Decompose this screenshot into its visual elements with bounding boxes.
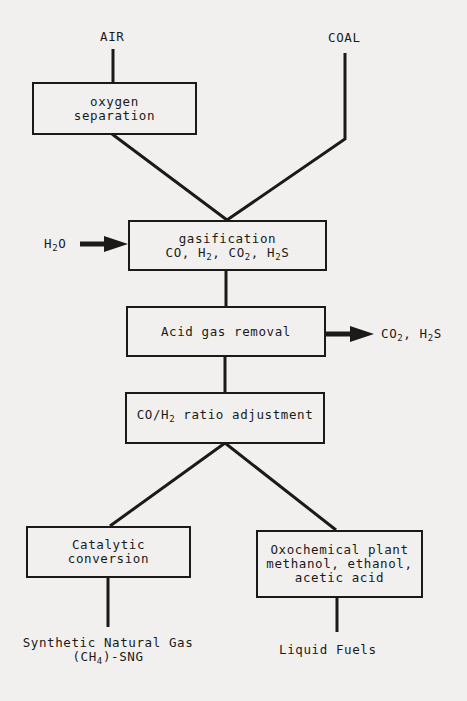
gasification-products: CO, H2, CO2, H2S <box>166 246 290 260</box>
oxygen-separation-line2: separation <box>74 109 155 123</box>
oxochemical-line1: Oxochemical plant <box>270 543 408 557</box>
acid-gas-removal-label: Acid gas removal <box>161 325 291 339</box>
input-water-label: H2O <box>44 237 66 251</box>
h2o-arrowhead-icon <box>104 236 128 252</box>
catalytic-conversion-line2: conversion <box>68 552 149 566</box>
node-ratio-adjustment: CO/H2 ratio adjustment <box>125 392 325 444</box>
gasification-title: gasification <box>179 232 277 246</box>
output-sng-line2: (CH4)-SNG <box>10 650 206 664</box>
oxochemical-line3: acetic acid <box>295 571 384 585</box>
node-catalytic-conversion: Catalytic conversion <box>26 526 191 578</box>
node-oxochemical-plant: Oxochemical plant methanol, ethanol, ace… <box>256 530 423 598</box>
output-liquid-fuels: Liquid Fuels <box>279 643 377 657</box>
node-acid-gas-removal: Acid gas removal <box>126 306 326 357</box>
input-coal-label: COAL <box>328 31 361 45</box>
output-sng: Synthetic Natural Gas (CH4)-SNG <box>10 636 206 664</box>
output-sng-line1: Synthetic Natural Gas <box>10 636 206 650</box>
node-gasification: gasification CO, H2, CO2, H2S <box>128 220 327 271</box>
node-oxygen-separation: oxygen separation <box>32 82 197 135</box>
input-air-label: AIR <box>100 30 124 44</box>
byproduct-acid-gases: CO2, H2S <box>381 327 442 341</box>
catalytic-conversion-line1: Catalytic <box>72 538 145 552</box>
acid-gas-arrowhead-icon <box>350 326 374 342</box>
ratio-adjustment-label: CO/H2 ratio adjustment <box>137 408 314 422</box>
oxochemical-line2: methanol, ethanol, <box>266 557 412 571</box>
oxygen-separation-line1: oxygen <box>90 95 139 109</box>
